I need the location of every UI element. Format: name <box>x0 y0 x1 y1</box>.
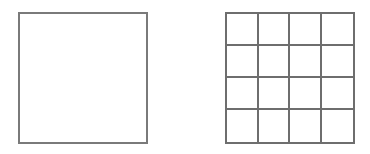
grid-cell <box>259 78 291 110</box>
grid-cell <box>322 110 354 142</box>
grid-cell <box>227 110 259 142</box>
grid-cell <box>259 14 291 46</box>
grid-cell <box>259 110 291 142</box>
undivided-square <box>18 12 148 144</box>
grid-cell <box>290 110 322 142</box>
four-by-four-grid-square <box>225 12 355 144</box>
grid-cell <box>227 46 259 78</box>
grid-cell <box>322 78 354 110</box>
grid-cell <box>290 78 322 110</box>
grid-cell <box>259 46 291 78</box>
grid-cell <box>227 14 259 46</box>
grid-cell <box>322 14 354 46</box>
grid-cell <box>290 14 322 46</box>
grid-cell <box>322 46 354 78</box>
grid-cell <box>290 46 322 78</box>
grid-cell <box>227 78 259 110</box>
